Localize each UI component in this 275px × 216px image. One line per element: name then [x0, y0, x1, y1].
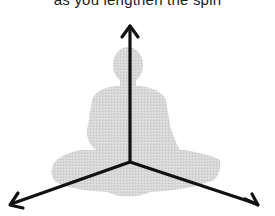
arrow-down-right-head — [245, 194, 258, 205]
meditating-figure-silhouette — [52, 47, 221, 196]
three-axis-diagram — [0, 0, 275, 216]
